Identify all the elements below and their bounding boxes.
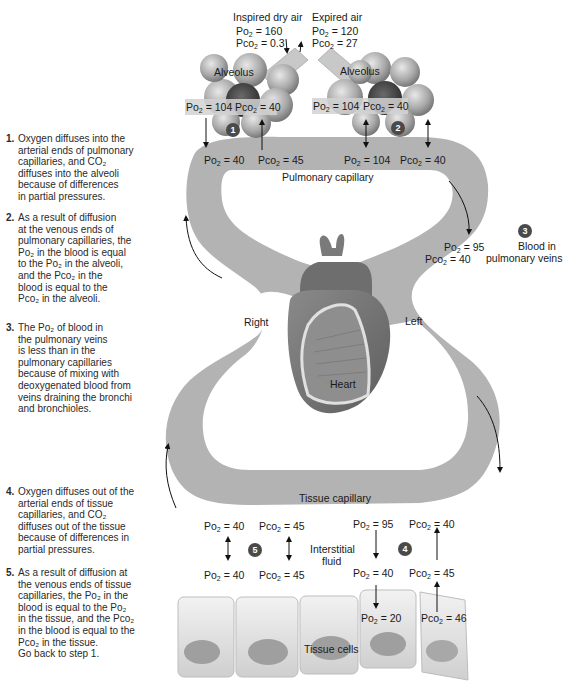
pulm-vein-pco2: Pco2 = 40 [425, 253, 471, 265]
tissue-cap-venous-pco2: Pco2 = 45 [259, 520, 305, 532]
inspired-air-title: Inspired dry air [233, 11, 302, 23]
pulm-cap-arterial-po2: Po2 = 40 [204, 154, 244, 166]
pulm-cap-arterial-pco2: Pco2 = 45 [258, 154, 304, 166]
expired-pco2: Pco2 = 27 [312, 37, 358, 49]
heart-label: Heart [330, 378, 356, 390]
alveolus-right-po2: Po2 = 104 [313, 100, 359, 112]
heart-right-label: Right [244, 316, 269, 328]
step-badge-2: 2 [391, 121, 405, 135]
inspired-pco2: Pco2 = 0.3 [236, 37, 285, 49]
step-badge-4: 4 [398, 542, 412, 556]
interstitial-label-1: Interstitial [310, 543, 355, 555]
tissue-cap-arterial-po2: Po2 = 95 [353, 518, 393, 530]
pulm-vein-po2: Po2 = 95 [444, 241, 484, 253]
interstitial-left-pco2: Pco2 = 45 [259, 569, 305, 581]
tissue-cap-arterial-pco2: Pco2 = 40 [409, 518, 455, 530]
tissue-cell-po2: Po2 = 20 [361, 612, 401, 624]
pulmonary-capillary-label: Pulmonary capillary [282, 171, 374, 183]
step-2: 2. As a result of diffusion at the venou… [6, 212, 196, 305]
step-4: 4. Oxygen diffuses out of the arterial e… [6, 486, 196, 556]
pulmonary-veins-label-1: Blood in [502, 240, 572, 252]
interstitial-label-2: fluid [322, 555, 341, 567]
pulm-cap-venous-po2: Po2 = 104 [344, 154, 390, 166]
interstitial-left-po2: Po2 = 40 [204, 569, 244, 581]
step-badge-5: 5 [248, 543, 262, 557]
alveolus-right-pco2: Pco2 = 40 [363, 100, 409, 112]
tissue-cap-venous-po2: Po2 = 40 [204, 520, 244, 532]
alveolus-left-label: Alveolus [214, 66, 254, 78]
step-5: 5. As a result of diffusion at the venou… [6, 567, 196, 660]
pulmonary-veins-label-2: pulmonary veins [486, 252, 562, 264]
step-1: 1. Oxygen diffuses into the arterial end… [6, 133, 196, 203]
step-badge-3: 3 [518, 224, 532, 238]
pulm-cap-venous-pco2: Pco2 = 40 [400, 154, 446, 166]
interstitial-right-po2: Po2 = 40 [353, 567, 393, 579]
alveolus-right-label: Alveolus [340, 65, 380, 77]
expired-air-title: Expired air [312, 11, 362, 23]
tissue-cells-illustration [178, 590, 468, 680]
tissue-capillary-label: Tissue capillary [299, 492, 371, 504]
alveolus-left-pco2: Pco2 = 40 [235, 101, 281, 113]
step-3: 3. The Po₂ of blood in the pulmonary vei… [6, 322, 196, 415]
step-badge-1: 1 [226, 123, 240, 137]
tissue-cell-pco2: Pco2 = 46 [421, 612, 467, 624]
alveolus-left-po2: Po2 = 104 [186, 101, 232, 113]
tissue-cells-label: Tissue cells [304, 643, 358, 655]
inspired-po2: Po2 = 160 [236, 25, 282, 37]
interstitial-right-pco2: Pco2 = 45 [409, 567, 455, 579]
expired-po2: Po2 = 120 [312, 25, 358, 37]
heart-left-label: Left [405, 315, 423, 327]
